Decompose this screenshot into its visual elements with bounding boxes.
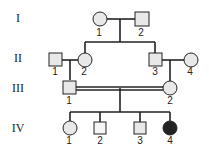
individual-number: 3	[137, 135, 143, 146]
individual-III-2-female	[163, 81, 177, 95]
individual-III-1-male	[63, 81, 76, 94]
individual-II-3-male	[149, 53, 162, 66]
generation-label: I	[16, 11, 20, 25]
individual-IV-3-male	[134, 122, 146, 134]
individual-II-2-female	[78, 53, 92, 67]
individual-number: 1	[52, 66, 58, 77]
individual-II-4-female	[184, 53, 198, 67]
individual-number: 1	[66, 135, 72, 146]
individual-number: 2	[81, 66, 87, 77]
individual-IV-2-male	[94, 122, 106, 134]
individual-number: 2	[167, 95, 173, 106]
individual-number: 4	[187, 66, 193, 77]
individual-I-2-male	[135, 12, 149, 26]
individual-number: 2	[138, 27, 144, 38]
individual-II-1-male	[49, 53, 62, 66]
individual-I-1-female	[93, 12, 107, 26]
generation-label: IV	[12, 121, 25, 135]
pedigree-chart: I II III IV 1 2 1 2 3 4 1 2 1 2	[0, 0, 209, 153]
individual-number: 3	[152, 66, 158, 77]
individual-number: 2	[97, 135, 103, 146]
individual-IV-4-female-affected	[163, 121, 177, 135]
generation-label: II	[14, 51, 22, 65]
individual-number: 1	[96, 27, 102, 38]
individual-IV-1-female	[63, 121, 77, 135]
individual-number: 1	[66, 95, 72, 106]
generation-label: III	[12, 81, 24, 95]
individual-number: 4	[167, 135, 173, 146]
